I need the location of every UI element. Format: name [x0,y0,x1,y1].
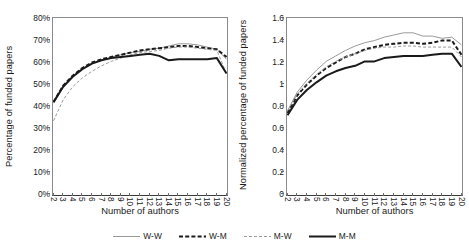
legend-line-swatch [244,232,271,241]
x-tick-mark [316,193,317,196]
x-tick-mark [129,193,130,196]
y-axis-label-right: Normalized percentage of funded papers [238,10,250,200]
x-tick-label: 4 [302,197,310,202]
x-tick-mark [72,193,73,196]
legend-label: M-M [339,231,356,241]
x-tick-mark [197,193,198,196]
x-tick-mark [422,193,423,196]
series-line-w-w [288,33,462,111]
x-tick-mark [168,193,169,196]
y-tick-mark [47,105,50,106]
y-tick-mark [281,193,284,194]
x-tick-mark [393,193,394,196]
x-tick-mark [325,193,326,196]
series-canvas [287,18,462,195]
y-tick-mark [47,193,50,194]
y-tick-mark [47,149,50,150]
y-tick-mark [281,61,284,62]
x-tick-label: 2 [283,197,291,202]
x-tick-label: 5 [77,197,85,202]
x-tick-mark [345,193,346,196]
y-axis-ticks-right: 00.20.40.60.811.21.41.6 [250,0,284,222]
x-tick-mark [403,193,404,196]
x-tick-label: 8 [341,197,349,202]
x-tick-mark [451,193,452,196]
x-tick-label: 8 [106,197,114,202]
x-tick-label: 4 [68,197,76,202]
y-tick-mark [47,83,50,84]
legend-label: M-W [274,231,292,241]
plot-area-left [52,17,228,196]
x-tick-mark [354,193,355,196]
x-tick-mark [62,193,63,196]
x-tick-label: 3 [58,197,66,202]
x-tick-mark [53,193,54,196]
y-tick-mark [47,17,50,18]
series-line-m-m [54,54,227,102]
x-tick-mark [296,193,297,196]
y-tick-mark [281,17,284,18]
x-tick-label: 6 [321,197,329,202]
y-tick-mark [47,127,50,128]
legend-item-m-m[interactable]: M-M [309,231,356,241]
x-tick-label: 7 [331,197,339,202]
x-tick-mark [81,193,82,196]
x-tick-mark [335,193,336,196]
legend-item-m-w[interactable]: M-W [244,231,292,241]
x-tick-mark [158,193,159,196]
plot-area-right [286,17,463,196]
y-tick-mark [281,127,284,128]
chart-legend: W-WW-MM-WM-M [0,226,469,246]
x-tick-mark [461,193,462,196]
legend-line-swatch [179,232,206,241]
figure-root: Percentage of funded papers 0%10%20%30%4… [0,0,469,249]
y-tick-mark [281,105,284,106]
chart-panel-left: Percentage of funded papers 0%10%20%30%4… [0,0,234,222]
x-tick-mark [432,193,433,196]
y-axis-label-left: Percentage of funded papers [4,18,16,194]
x-tick-mark [101,193,102,196]
legend-item-w-w[interactable]: W-W [113,231,162,241]
y-tick-mark [281,171,284,172]
x-tick-mark [177,193,178,196]
legend-item-w-m[interactable]: W-M [179,231,227,241]
series-line-w-m [288,41,462,114]
x-axis-label-left: Number of authors [52,205,228,216]
series-line-m-w [54,47,227,121]
x-tick-mark [110,193,111,196]
x-tick-mark [120,193,121,196]
x-tick-label: 6 [87,197,95,202]
series-canvas [53,18,227,195]
x-tick-label: 2 [49,197,57,202]
y-tick-mark [281,83,284,84]
x-tick-mark [441,193,442,196]
y-tick-mark [47,171,50,172]
x-tick-mark [187,193,188,196]
legend-label: W-W [143,231,162,241]
y-tick-mark [47,61,50,62]
x-tick-mark [139,193,140,196]
x-tick-mark [364,193,365,196]
x-tick-mark [149,193,150,196]
x-tick-label: 3 [292,197,300,202]
x-axis-label-right: Number of authors [286,205,463,216]
y-tick-mark [281,149,284,150]
x-tick-label: 5 [312,197,320,202]
y-tick-mark [281,39,284,40]
x-tick-mark [206,193,207,196]
legend-line-swatch [309,232,336,241]
x-tick-mark [216,193,217,196]
y-tick-mark [47,39,50,40]
x-tick-label: 7 [97,197,105,202]
legend-label: W-M [209,231,227,241]
x-tick-label: 9 [116,197,124,202]
x-tick-mark [383,193,384,196]
x-tick-mark [91,193,92,196]
x-tick-mark [287,193,288,196]
x-tick-mark [412,193,413,196]
series-line-m-m [288,54,462,116]
legend-line-swatch [113,232,140,241]
y-axis-ticks-left: 0%10%20%30%40%50%60%70%80% [16,0,50,222]
x-tick-label: 9 [350,197,358,202]
x-tick-mark [226,193,227,196]
